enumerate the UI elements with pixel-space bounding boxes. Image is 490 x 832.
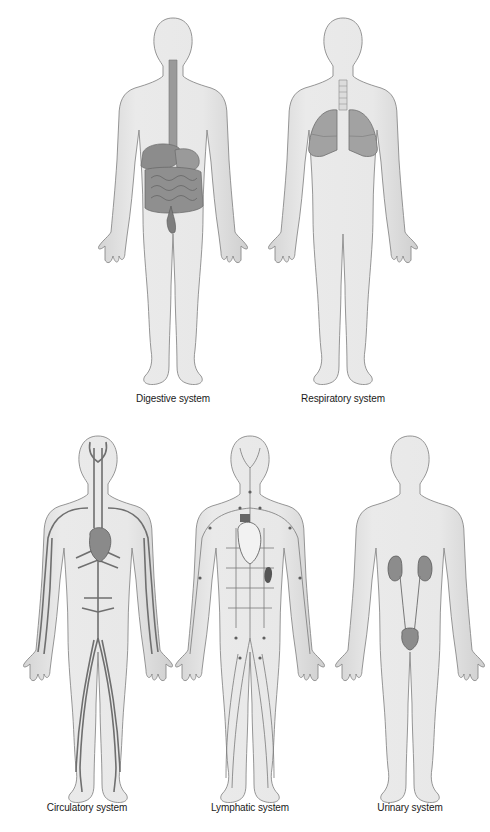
liver [141, 144, 181, 169]
label-digestive-system: Digestive system [136, 393, 210, 404]
body-silhouette [330, 428, 490, 808]
figure-urinary-system: Urinary system [330, 428, 490, 818]
cropped-caption-remnant [0, 0, 490, 2]
body-silhouette [263, 10, 423, 390]
esophagus [169, 60, 177, 152]
figure-respiratory-system: Respiratory system [263, 10, 423, 390]
label-urinary-system: Urinary system [377, 802, 442, 813]
label-circulatory-system: Circulatory system [47, 802, 127, 813]
body-silhouette [18, 428, 178, 808]
figure-circulatory-system: Circulatory system [18, 428, 178, 818]
figure-digestive-system: Digestive system [93, 10, 253, 390]
body-silhouette [93, 10, 253, 390]
thymus [240, 514, 250, 522]
label-lymphatic-system: Lymphatic system [211, 802, 289, 813]
figure-lymphatic-system: Lymphatic system [170, 428, 330, 818]
body-silhouette [170, 428, 330, 808]
trachea [339, 80, 347, 110]
label-respiratory-system: Respiratory system [301, 393, 385, 404]
